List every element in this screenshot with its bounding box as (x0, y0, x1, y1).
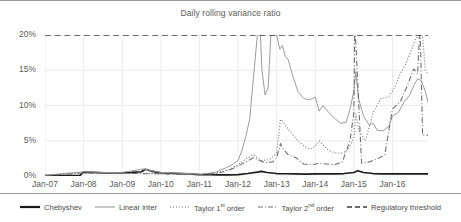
x-axis-tick-label: Jan-08 (71, 179, 97, 189)
plot-area (45, 35, 428, 176)
gridlines (45, 35, 428, 176)
bottom-divider-rule (0, 193, 461, 194)
legend-item-label: Chebyshev (44, 203, 82, 212)
y-axis: 0%5%10%15%20% (0, 35, 41, 176)
x-axis-tick-label: Jan-12 (225, 179, 251, 189)
chart-title: Daily rolling variance ratio (0, 8, 461, 18)
x-axis-tick-label: Jan-11 (187, 179, 212, 189)
x-axis: Jan-07Jan-08Jan-09Jan-10Jan-11Jan-12Jan-… (0, 179, 461, 193)
y-axis-tick-label: 15% (19, 64, 36, 74)
legend-item-label: Linear inter (119, 203, 157, 212)
legend-item-label: Regulatory threshold (371, 203, 441, 212)
legend-item-label: Taylor 1st order (194, 202, 245, 213)
legend-item-linear-inter[interactable]: Linear inter (95, 203, 157, 212)
legend-swatch-line (20, 203, 40, 211)
x-axis-tick-label: Jan-16 (379, 179, 405, 189)
legend-item-regulatory-threshold[interactable]: Regulatory threshold (347, 203, 441, 212)
x-axis-tick-label: Jan-07 (32, 179, 58, 189)
chart-container: Daily rolling variance ratio 0%5%10%15%2… (0, 0, 461, 222)
x-axis-tick-label: Jan-15 (341, 179, 367, 189)
x-axis-tick-label: Jan-09 (109, 179, 135, 189)
legend-swatch-line (258, 203, 278, 211)
legend-label-superscript: st (221, 202, 225, 208)
y-axis-tick-label: 20% (19, 29, 36, 39)
legend-swatch-line (347, 203, 367, 211)
chart-legend: ChebyshevLinear interTaylor 1st orderTay… (0, 199, 461, 215)
legend-item-taylor-1st-order[interactable]: Taylor 1st order (170, 202, 245, 213)
x-axis-tick-label: Jan-13 (264, 179, 290, 189)
legend-item-taylor-2nd-order[interactable]: Taylor 2nd order (258, 202, 334, 213)
legend-swatch-line (170, 203, 190, 211)
y-axis-tick-label: 10% (19, 100, 36, 110)
top-divider-rule (0, 0, 461, 1)
legend-item-label: Taylor 2nd order (282, 202, 334, 213)
x-axis-tick-label: Jan-14 (302, 179, 328, 189)
legend-label-superscript: nd (308, 202, 314, 208)
x-axis-tick-label: Jan-10 (148, 179, 174, 189)
y-axis-tick-label: 5% (24, 135, 36, 145)
legend-item-chebyshev[interactable]: Chebyshev (20, 203, 82, 212)
legend-swatch-line (95, 203, 115, 211)
plot-svg (45, 35, 428, 176)
